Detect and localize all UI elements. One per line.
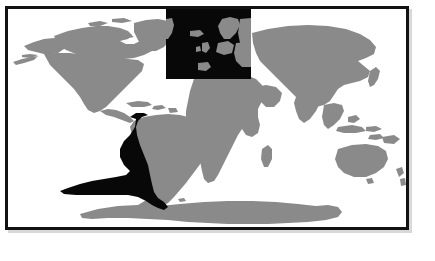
map-canvas (8, 9, 406, 227)
highlight-atlantic-europe-box-layer (166, 9, 251, 79)
world-map-svg (8, 9, 406, 227)
world-map-figure (5, 6, 409, 230)
